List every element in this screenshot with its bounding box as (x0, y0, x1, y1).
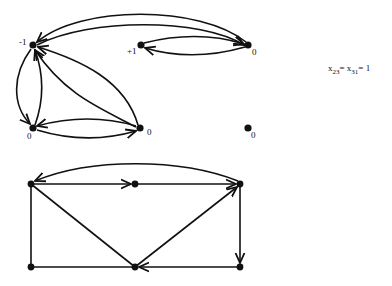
bottom-graph-nodes (28, 181, 244, 271)
equation-value: 1 (366, 63, 371, 73)
node-label-n5: 0 (147, 128, 152, 137)
node-n3 (244, 41, 251, 48)
bottom-graph (31, 164, 240, 267)
node-label-n1: -1 (19, 38, 27, 47)
edge-m1-m5 (31, 184, 135, 267)
node-m1 (28, 181, 35, 188)
node-n5 (136, 124, 143, 131)
edge-m5-m3 (135, 187, 237, 267)
node-n1 (29, 41, 36, 48)
node-label-n4: 0 (27, 132, 32, 141)
edge-n3-n2 (145, 47, 245, 55)
equation-eq2: = (358, 63, 363, 73)
edge-n5-n1-inner (35, 50, 136, 127)
equation-eq1: = (340, 63, 345, 73)
edge-n5-n1-outer (38, 47, 138, 125)
node-m4 (28, 264, 35, 271)
node-label-n3: 0 (252, 48, 257, 57)
node-label-n2: +1 (127, 47, 137, 56)
node-n2 (137, 41, 144, 48)
node-m2 (132, 181, 139, 188)
edge-m3-m1-arc (35, 164, 238, 181)
edge-n4-n5 (37, 130, 136, 138)
node-m6 (237, 264, 244, 271)
node-label-n6: 0 (251, 131, 256, 140)
top-graph (17, 14, 246, 137)
edge-n4-n1 (35, 50, 42, 125)
node-m3 (237, 181, 244, 188)
edge-n1-n4 (17, 49, 31, 124)
equation-label: x23= x31= 1 (328, 63, 370, 76)
node-m5 (132, 264, 139, 271)
graph-canvas (0, 0, 392, 286)
equation-sub1: 23 (333, 68, 340, 76)
